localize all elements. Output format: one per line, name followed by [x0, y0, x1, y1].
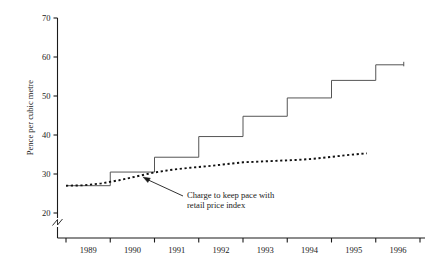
- y-tick-label: 60: [42, 52, 51, 62]
- annotation-arrow-head: [143, 177, 150, 183]
- line-chart: 203040506070Pence per cubic metre1989199…: [0, 0, 432, 269]
- chart-container: 203040506070Pence per cubic metre1989199…: [0, 0, 432, 269]
- x-tick-label: 1992: [212, 245, 229, 255]
- x-tick-label: 1989: [80, 245, 97, 255]
- y-tick-label: 50: [42, 91, 51, 101]
- x-tick-label: 1991: [168, 245, 185, 255]
- y-tick-label: 70: [42, 13, 51, 23]
- y-tick-label: 30: [42, 169, 51, 179]
- x-tick-label: 1995: [345, 245, 362, 255]
- x-tick-label: 1990: [124, 245, 141, 255]
- y-axis-title: Pence per cubic metre: [25, 80, 35, 156]
- annotation-line-2: retail price index: [187, 200, 246, 210]
- x-tick-label: 1993: [257, 245, 274, 255]
- y-tick-label: 40: [42, 130, 51, 140]
- annotation-line-1: Charge to keep pace with: [187, 190, 275, 200]
- x-tick-label: 1996: [389, 245, 406, 255]
- y-axis-break-icon: [53, 219, 63, 226]
- annotation-arrow-line: [147, 179, 183, 196]
- x-tick-label: 1994: [301, 245, 319, 255]
- rpi-dotted-line: [66, 153, 367, 185]
- actual-charge-step-line: [66, 65, 404, 186]
- y-tick-label: 20: [42, 208, 51, 218]
